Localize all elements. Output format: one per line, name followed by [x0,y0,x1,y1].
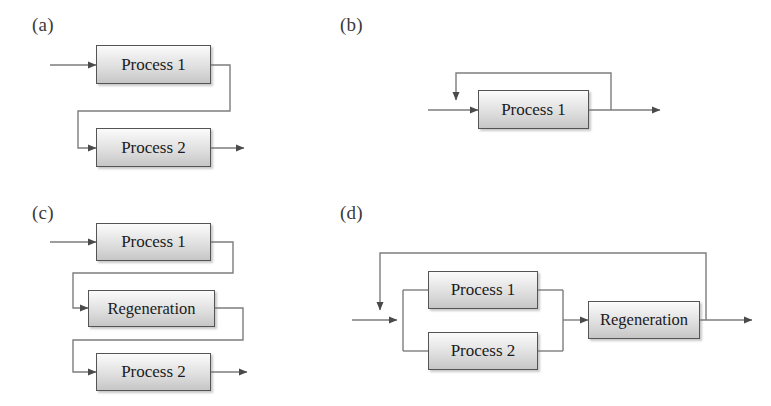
panel-d-process-1-label: Process 1 [451,280,516,300]
panel-a-process-2-box[interactable]: Process 2 [96,128,211,167]
panel-b-process-1-label: Process 1 [501,100,566,120]
panel-label-d: (d) [340,202,363,224]
panel-d-regeneration-box[interactable]: Regeneration [588,301,700,339]
panel-a-process-1-box[interactable]: Process 1 [96,45,211,84]
panel-c-process-2-label: Process 2 [121,362,186,382]
panel-a-process-2-label: Process 2 [121,138,186,158]
panel-c-process-1-label: Process 1 [121,232,186,252]
panel-c-process-1-box[interactable]: Process 1 [96,223,211,261]
panel-d-process-2-label: Process 2 [451,341,516,361]
process-flow-diagram: (a) (b) (c) (d) Process 1 Process 2 Proc… [0,0,771,406]
panel-label-a: (a) [32,14,54,36]
panel-c-regeneration-label: Regeneration [108,299,196,319]
panel-label-b: (b) [340,14,363,36]
panel-c-process-2-box[interactable]: Process 2 [96,353,211,391]
panel-c-regeneration-box[interactable]: Regeneration [88,290,215,327]
panel-d-process-1-box[interactable]: Process 1 [428,271,538,309]
panel-label-c: (c) [32,202,54,224]
panel-d-regeneration-label: Regeneration [600,310,688,330]
panel-d-process-2-box[interactable]: Process 2 [428,332,538,370]
panel-b-process-1-box[interactable]: Process 1 [478,90,589,129]
panel-a-process-1-label: Process 1 [121,55,186,75]
